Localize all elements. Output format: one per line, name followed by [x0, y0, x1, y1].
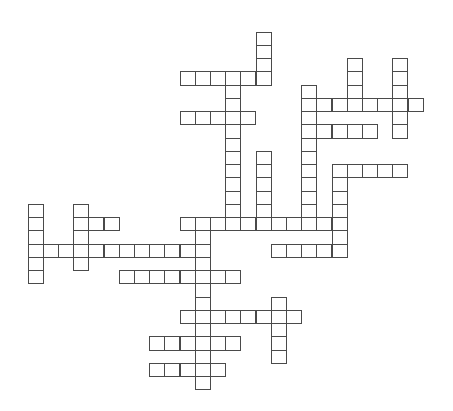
- crossword-cell[interactable]: [301, 151, 317, 165]
- crossword-cell[interactable]: [195, 71, 211, 85]
- crossword-cell[interactable]: [195, 350, 211, 364]
- crossword-cell[interactable]: [195, 310, 211, 324]
- crossword-cell[interactable]: [195, 336, 211, 350]
- crossword-cell[interactable]: [377, 98, 393, 112]
- crossword-cell[interactable]: [73, 244, 89, 258]
- crossword-cell[interactable]: [164, 336, 180, 350]
- crossword-cell[interactable]: [225, 217, 241, 231]
- crossword-cell[interactable]: [225, 177, 241, 191]
- crossword-cell[interactable]: [392, 111, 408, 125]
- crossword-cell[interactable]: [301, 164, 317, 178]
- crossword-cell[interactable]: [210, 363, 226, 377]
- crossword-cell[interactable]: [119, 270, 135, 284]
- crossword-cell[interactable]: [73, 230, 89, 244]
- crossword-cell[interactable]: [301, 85, 317, 99]
- crossword-cell[interactable]: [332, 230, 348, 244]
- crossword-cell[interactable]: [149, 336, 165, 350]
- crossword-cell[interactable]: [180, 217, 196, 231]
- crossword-cell[interactable]: [195, 283, 211, 297]
- crossword-cell[interactable]: [301, 244, 317, 258]
- crossword-cell[interactable]: [256, 177, 272, 191]
- crossword-cell[interactable]: [210, 217, 226, 231]
- crossword-cell[interactable]: [104, 244, 120, 258]
- crossword-cell[interactable]: [301, 124, 317, 138]
- crossword-cell[interactable]: [180, 336, 196, 350]
- crossword-cell[interactable]: [347, 164, 363, 178]
- crossword-cell[interactable]: [256, 191, 272, 205]
- crossword-cell[interactable]: [271, 310, 287, 324]
- crossword-cell[interactable]: [225, 336, 241, 350]
- crossword-cell[interactable]: [164, 363, 180, 377]
- crossword-cell[interactable]: [362, 164, 378, 178]
- crossword-cell[interactable]: [180, 310, 196, 324]
- crossword-cell[interactable]: [195, 376, 211, 390]
- crossword-cell[interactable]: [256, 32, 272, 46]
- crossword-cell[interactable]: [392, 98, 408, 112]
- crossword-cell[interactable]: [58, 244, 74, 258]
- crossword-cell[interactable]: [332, 164, 348, 178]
- crossword-cell[interactable]: [347, 98, 363, 112]
- crossword-cell[interactable]: [210, 270, 226, 284]
- crossword-cell[interactable]: [286, 217, 302, 231]
- crossword-cell[interactable]: [286, 244, 302, 258]
- crossword-cell[interactable]: [180, 111, 196, 125]
- crossword-cell[interactable]: [256, 58, 272, 72]
- crossword-cell[interactable]: [210, 310, 226, 324]
- crossword-cell[interactable]: [256, 151, 272, 165]
- crossword-cell[interactable]: [332, 204, 348, 218]
- crossword-cell[interactable]: [28, 217, 44, 231]
- crossword-cell[interactable]: [225, 85, 241, 99]
- crossword-cell[interactable]: [210, 71, 226, 85]
- crossword-cell[interactable]: [316, 244, 332, 258]
- crossword-cell[interactable]: [271, 323, 287, 337]
- crossword-cell[interactable]: [301, 204, 317, 218]
- crossword-cell[interactable]: [225, 310, 241, 324]
- crossword-cell[interactable]: [392, 71, 408, 85]
- crossword-cell[interactable]: [240, 71, 256, 85]
- crossword-cell[interactable]: [180, 244, 196, 258]
- crossword-cell[interactable]: [195, 297, 211, 311]
- crossword-cell[interactable]: [180, 71, 196, 85]
- crossword-cell[interactable]: [316, 217, 332, 231]
- crossword-cell[interactable]: [195, 257, 211, 271]
- crossword-cell[interactable]: [301, 177, 317, 191]
- crossword-cell[interactable]: [210, 336, 226, 350]
- crossword-cell[interactable]: [408, 98, 424, 112]
- crossword-cell[interactable]: [195, 217, 211, 231]
- crossword-cell[interactable]: [347, 58, 363, 72]
- crossword-cell[interactable]: [195, 230, 211, 244]
- crossword-cell[interactable]: [256, 45, 272, 59]
- crossword-cell[interactable]: [256, 164, 272, 178]
- crossword-cell[interactable]: [377, 164, 393, 178]
- crossword-cell[interactable]: [392, 85, 408, 99]
- crossword-cell[interactable]: [301, 111, 317, 125]
- crossword-cell[interactable]: [225, 270, 241, 284]
- crossword-cell[interactable]: [73, 217, 89, 231]
- crossword-cell[interactable]: [256, 310, 272, 324]
- crossword-cell[interactable]: [195, 363, 211, 377]
- crossword-cell[interactable]: [104, 217, 120, 231]
- crossword-cell[interactable]: [271, 350, 287, 364]
- crossword-cell[interactable]: [301, 191, 317, 205]
- crossword-cell[interactable]: [210, 111, 226, 125]
- crossword-cell[interactable]: [195, 244, 211, 258]
- crossword-cell[interactable]: [225, 138, 241, 152]
- crossword-cell[interactable]: [332, 124, 348, 138]
- crossword-cell[interactable]: [225, 204, 241, 218]
- crossword-cell[interactable]: [28, 204, 44, 218]
- crossword-cell[interactable]: [195, 111, 211, 125]
- crossword-cell[interactable]: [347, 85, 363, 99]
- crossword-cell[interactable]: [347, 124, 363, 138]
- crossword-cell[interactable]: [271, 217, 287, 231]
- crossword-cell[interactable]: [195, 270, 211, 284]
- crossword-cell[interactable]: [225, 151, 241, 165]
- crossword-cell[interactable]: [347, 71, 363, 85]
- crossword-cell[interactable]: [149, 270, 165, 284]
- crossword-cell[interactable]: [362, 98, 378, 112]
- crossword-cell[interactable]: [88, 244, 104, 258]
- crossword-cell[interactable]: [332, 191, 348, 205]
- crossword-cell[interactable]: [316, 124, 332, 138]
- crossword-cell[interactable]: [225, 111, 241, 125]
- crossword-cell[interactable]: [28, 270, 44, 284]
- crossword-cell[interactable]: [134, 244, 150, 258]
